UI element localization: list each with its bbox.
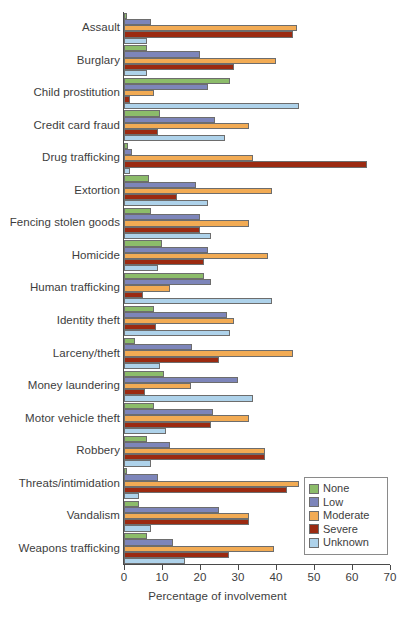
legend-item-severe[interactable]: Severe <box>309 523 383 536</box>
category-label-burglary: Burglary <box>0 54 120 66</box>
bar-chart: AssaultBurglaryChild prostitutionCredit … <box>0 0 399 625</box>
bar-severe <box>124 161 367 167</box>
bar-unknown <box>124 330 230 336</box>
category-label-motor-vehicle-theft: Motor vehicle theft <box>0 412 120 424</box>
bar-severe <box>124 487 287 493</box>
category-label-homicide: Homicide <box>0 249 120 261</box>
x-tick <box>200 565 201 570</box>
bar-unknown <box>124 298 272 304</box>
legend-item-low[interactable]: Low <box>309 496 383 509</box>
category-group: Drug trafficking <box>0 142 399 175</box>
x-tick-label: 10 <box>155 571 168 583</box>
legend-label: None <box>323 483 349 494</box>
x-tick <box>314 565 315 570</box>
category-label-human-trafficking: Human trafficking <box>0 281 120 293</box>
x-tick <box>238 565 239 570</box>
legend-item-moderate[interactable]: Moderate <box>309 509 383 522</box>
bar-unknown <box>124 363 160 369</box>
x-tick-label: 0 <box>121 571 128 583</box>
bar-unknown <box>124 428 166 434</box>
x-tick-label: 40 <box>269 571 282 583</box>
x-tick-label: 50 <box>307 571 320 583</box>
bar-unknown <box>124 460 151 466</box>
chart-legend: NoneLowModerateSevereUnknown <box>304 477 388 555</box>
bar-unknown <box>124 525 151 531</box>
category-label-fencing-stolen-goods: Fencing stolen goods <box>0 216 120 228</box>
category-group: Human trafficking <box>0 272 399 305</box>
x-tick <box>390 565 391 570</box>
bar-unknown <box>124 493 139 499</box>
bar-unknown <box>124 103 299 109</box>
x-tick <box>276 565 277 570</box>
category-group: Assault <box>0 12 399 45</box>
legend-item-none[interactable]: None <box>309 482 383 495</box>
bar-unknown <box>124 233 211 239</box>
category-group: Identity theft <box>0 305 399 338</box>
x-tick <box>352 565 353 570</box>
category-group: Robbery <box>0 435 399 468</box>
category-label-drug-trafficking: Drug trafficking <box>0 151 120 163</box>
legend-swatch-icon <box>309 538 319 548</box>
bar-unknown <box>124 265 158 271</box>
category-label-assault: Assault <box>0 21 120 33</box>
legend-label: Unknown <box>323 537 369 548</box>
category-group: Money laundering <box>0 370 399 403</box>
legend-swatch-icon <box>309 484 319 494</box>
x-tick-label: 60 <box>345 571 358 583</box>
category-group: Motor vehicle theft <box>0 402 399 435</box>
x-tick-label: 20 <box>193 571 206 583</box>
category-group: Homicide <box>0 240 399 273</box>
category-group: Extortion <box>0 175 399 208</box>
category-label-robbery: Robbery <box>0 444 120 456</box>
x-tick <box>162 565 163 570</box>
category-group: Child prostitution <box>0 77 399 110</box>
bar-unknown <box>124 38 147 44</box>
category-label-threats-intimidation: Threats/intimidation <box>0 477 120 489</box>
x-axis-title: Percentage of involvement <box>0 590 399 602</box>
bar-unknown <box>124 395 253 401</box>
legend-label: Low <box>323 497 343 508</box>
legend-swatch-icon <box>309 497 319 507</box>
x-tick-label: 70 <box>383 571 396 583</box>
x-axis-title-text: Percentage of involvement <box>112 590 287 602</box>
category-label-extortion: Extortion <box>0 184 120 196</box>
legend-swatch-icon <box>309 524 319 534</box>
category-group: Burglary <box>0 45 399 78</box>
bar-unknown <box>124 558 185 564</box>
bar-severe <box>124 31 293 37</box>
bar-unknown <box>124 168 130 174</box>
category-group: Credit card fraud <box>0 110 399 143</box>
category-label-credit-card-fraud: Credit card fraud <box>0 119 120 131</box>
category-group: Larceny/theft <box>0 337 399 370</box>
category-label-weapons-trafficking: Weapons trafficking <box>0 542 120 554</box>
legend-item-unknown[interactable]: Unknown <box>309 536 383 549</box>
category-label-child-prostitution: Child prostitution <box>0 86 120 98</box>
category-group: Fencing stolen goods <box>0 207 399 240</box>
bar-unknown <box>124 200 208 206</box>
bar-unknown <box>124 70 147 76</box>
category-label-vandalism: Vandalism <box>0 509 120 521</box>
x-tick-label: 30 <box>231 571 244 583</box>
legend-swatch-icon <box>309 511 319 521</box>
legend-label: Moderate <box>323 510 369 521</box>
category-label-larceny-theft: Larceny/theft <box>0 347 120 359</box>
category-label-money-laundering: Money laundering <box>0 379 120 391</box>
category-label-identity-theft: Identity theft <box>0 314 120 326</box>
x-tick <box>124 565 125 570</box>
bar-unknown <box>124 135 225 141</box>
legend-label: Severe <box>323 524 358 535</box>
